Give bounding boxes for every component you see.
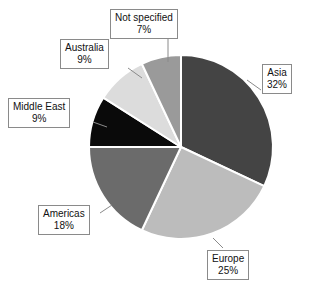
callout-asia-percent: 32% xyxy=(267,79,287,91)
callout-europe-percent: 25% xyxy=(212,265,244,277)
leader-line-europe xyxy=(213,238,223,248)
callout-australia: Australia 9% xyxy=(60,39,109,69)
callout-americas-category: Americas xyxy=(43,208,85,220)
callout-europe: Europe 25% xyxy=(207,250,249,280)
callout-middle-east-category: Middle East xyxy=(13,101,65,113)
pie-chart-svg xyxy=(0,0,314,295)
callout-australia-category: Australia xyxy=(65,42,104,54)
callout-asia: Asia 32% xyxy=(262,64,292,94)
callout-americas: Americas 18% xyxy=(38,205,90,235)
callout-australia-percent: 9% xyxy=(65,54,104,66)
pie-chart-figure: Not specified 7% Australia 9% Middle Eas… xyxy=(0,0,314,295)
callout-not-specified-percent: 7% xyxy=(115,24,173,36)
callout-middle-east: Middle East 9% xyxy=(8,98,70,128)
callout-not-specified: Not specified 7% xyxy=(110,9,178,39)
callout-americas-percent: 18% xyxy=(43,220,85,232)
callout-asia-category: Asia xyxy=(267,67,287,79)
callout-not-specified-category: Not specified xyxy=(115,12,173,24)
callout-europe-category: Europe xyxy=(212,253,244,265)
leader-line-americas xyxy=(100,205,112,213)
pie-slice-group xyxy=(89,55,273,239)
callout-middle-east-percent: 9% xyxy=(13,113,65,125)
